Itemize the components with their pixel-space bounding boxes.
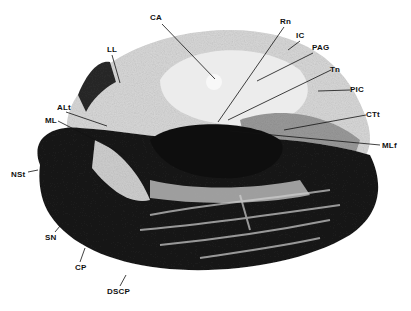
brainstem-section-image bbox=[0, 0, 411, 311]
label-Rn: Rn bbox=[280, 18, 291, 26]
label-Tn: Tn bbox=[330, 66, 340, 74]
label-LL: LL bbox=[107, 46, 117, 54]
label-CP: CP bbox=[75, 264, 87, 272]
label-MLf: MLf bbox=[382, 142, 397, 150]
label-PIC: PIC bbox=[350, 86, 364, 94]
label-NSt: NSt bbox=[11, 171, 25, 179]
label-CA: CA bbox=[150, 14, 162, 22]
label-PAG: PAG bbox=[312, 44, 329, 52]
histology-figure: CA Rn IC PAG Tn PIC CTt MLf LL ALt ML NS… bbox=[0, 0, 411, 311]
label-IC: IC bbox=[296, 32, 304, 40]
label-ALt: ALt bbox=[57, 104, 71, 112]
label-ML: ML bbox=[45, 117, 57, 125]
label-CTt: CTt bbox=[366, 111, 380, 119]
label-SN: SN bbox=[45, 234, 57, 242]
label-DSCP: DSCP bbox=[107, 288, 130, 296]
